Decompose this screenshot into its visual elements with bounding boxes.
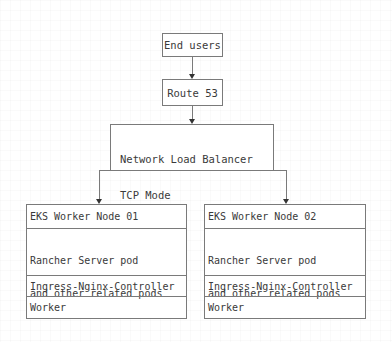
nlb-label-line2: TCP Mode — [120, 189, 273, 201]
node-title-row: EKS Worker Node 01 — [27, 205, 186, 228]
node-title: EKS Worker Node 01 — [30, 211, 138, 222]
node-role-row: Worker — [27, 296, 186, 318]
pods-line1: Rancher Server pod — [208, 255, 365, 266]
node-ingress-row: Ingress-Nginx-Controller — [27, 275, 186, 296]
connector-nlb-node01 — [99, 170, 100, 200]
route53-label: Route 53 — [167, 87, 218, 99]
route53-box: Route 53 — [162, 79, 223, 106]
end-users-box: End users — [162, 33, 223, 57]
eks-worker-node-02: EKS Worker Node 02 Rancher Server pod an… — [204, 204, 366, 319]
connector-route53-nlb — [192, 106, 193, 120]
end-users-label: End users — [164, 39, 221, 51]
node-pods-row: Rancher Server pod and other related pod… — [27, 228, 186, 275]
pods-line1: Rancher Server pod — [30, 255, 186, 266]
role-label: Worker — [208, 302, 244, 313]
connector-nlb-node02 — [286, 170, 287, 200]
ingress-label: Ingress-Nginx-Controller — [30, 281, 175, 292]
node-title-row: EKS Worker Node 02 — [205, 205, 365, 228]
node-pods-row: Rancher Server pod and other related pod… — [205, 228, 365, 275]
network-load-balancer-box: Network Load Balancer TCP Mode — [110, 124, 274, 171]
diagram-canvas: End users Route 53 Network Load Balancer… — [0, 0, 392, 342]
node-title: EKS Worker Node 02 — [208, 211, 316, 222]
eks-worker-node-01: EKS Worker Node 01 Rancher Server pod an… — [26, 204, 187, 319]
connector-endusers-route53 — [192, 57, 193, 75]
role-label: Worker — [30, 302, 66, 313]
ingress-label: Ingress-Nginx-Controller — [208, 281, 353, 292]
connector-nlb-horizontal — [99, 170, 287, 171]
node-role-row: Worker — [205, 296, 365, 318]
node-ingress-row: Ingress-Nginx-Controller — [205, 275, 365, 296]
nlb-label-line1: Network Load Balancer — [120, 153, 273, 165]
